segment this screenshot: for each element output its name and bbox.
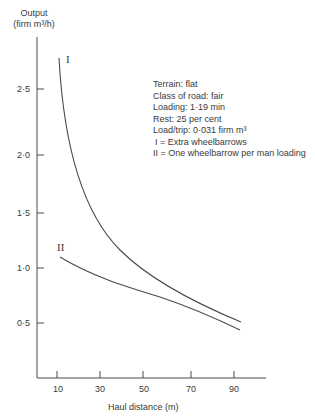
y-tick-label: 0·5 <box>8 318 30 328</box>
y-ticks <box>37 89 44 323</box>
x-axis-label: Haul distance (m) <box>108 402 179 412</box>
y-tick-label: 2·0 <box>8 150 30 160</box>
legend-II: II = One wheelbarrow per man loading <box>153 148 306 160</box>
note-road-class: Class of road: fair <box>153 91 306 103</box>
note-rest: Rest: 25 per cent <box>153 114 306 126</box>
legend-I: I = Extra wheelbarrows <box>153 137 306 149</box>
chart-plot <box>0 0 315 420</box>
x-tick-label: 10 <box>46 384 70 394</box>
note-terrain: Terrain: flat <box>153 79 306 91</box>
curve-II-label: II <box>57 241 64 253</box>
y-tick-label: 2·5 <box>8 84 30 94</box>
x-tick-label: 50 <box>132 384 156 394</box>
series-II-line <box>60 257 240 330</box>
note-load-trip: Load/trip: 0·031 firm m³ <box>153 125 306 137</box>
curve-I-label: I <box>66 53 70 65</box>
x-ticks <box>57 371 234 378</box>
chart-annotations: Terrain: flat Class of road: fair Loadin… <box>153 79 306 160</box>
y-tick-label: 1·5 <box>8 208 30 218</box>
x-tick-label: 90 <box>222 384 246 394</box>
x-tick-label: 30 <box>88 384 112 394</box>
note-loading: Loading: 1·19 min <box>153 102 306 114</box>
y-tick-label: 1·0 <box>8 263 30 273</box>
x-tick-label: 70 <box>179 384 203 394</box>
